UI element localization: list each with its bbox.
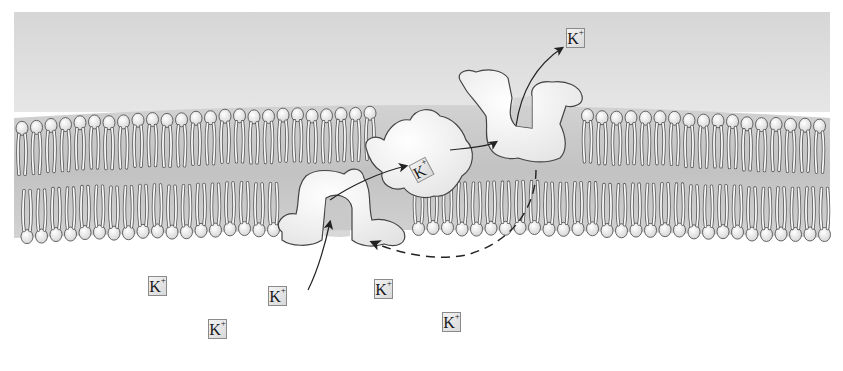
potassium-ion-label: K+ <box>148 276 167 296</box>
ion-symbol: K+ <box>375 282 392 298</box>
ion-symbol: K+ <box>209 322 226 338</box>
extracellular-region <box>14 12 830 112</box>
potassium-ion-label: K+ <box>374 279 393 299</box>
ion-charge: + <box>281 285 286 295</box>
ion-symbol: K+ <box>567 31 584 47</box>
ion-charge: + <box>161 275 166 285</box>
ion-charge: + <box>387 278 392 288</box>
potassium-ion-label: K+ <box>208 319 227 339</box>
potassium-ion-label: K+ <box>268 286 287 306</box>
membrane-transport-diagram <box>0 0 843 371</box>
ion-symbol: K+ <box>149 279 166 295</box>
ion-symbol: K+ <box>443 315 460 331</box>
potassium-ion-label: K+ <box>442 312 461 332</box>
potassium-ion-label: K+ <box>566 28 585 48</box>
ion-charge: + <box>221 318 226 328</box>
ion-symbol: K+ <box>269 289 286 305</box>
ion-charge: + <box>579 27 584 37</box>
ion-charge: + <box>455 311 460 321</box>
